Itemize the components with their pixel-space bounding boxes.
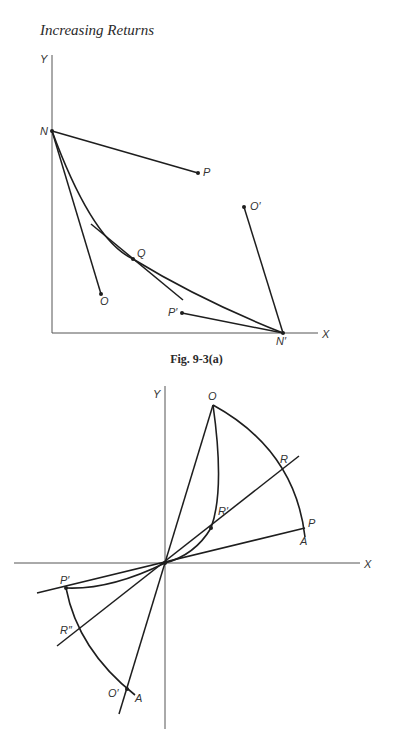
arc-o-r-p <box>213 405 305 537</box>
label-a-lower: A <box>134 692 142 704</box>
label-rdoubleprime: R″ <box>60 624 73 636</box>
point-q <box>131 257 135 261</box>
curve-n-q-nprime <box>52 131 283 333</box>
line-pprime-nprime <box>182 313 283 333</box>
point-rprime <box>209 526 213 530</box>
figure-caption: Fig. 9-3(a) <box>0 352 393 367</box>
x-axis-label: X <box>321 328 330 340</box>
y-axis-label: Y <box>153 388 161 400</box>
curve-origin-pprime <box>66 563 165 588</box>
label-pprime: P′ <box>60 574 70 586</box>
point-pprime <box>64 586 68 590</box>
point-oprime <box>125 687 129 691</box>
figure-b: Y X O R R′ P A P′ R″ O′ A <box>14 386 372 729</box>
point-pprime <box>180 311 184 315</box>
label-r: R <box>280 453 288 465</box>
label-pprime: P′ <box>168 306 178 318</box>
label-oprime: O′ <box>108 687 120 699</box>
label-o: O <box>100 295 109 307</box>
label-p: P <box>203 166 211 178</box>
label-rprime: R′ <box>218 505 229 517</box>
line-r-rdoubleprime <box>57 456 299 646</box>
figure-a: Y X N P O′ Q O P′ N′ <box>40 53 330 347</box>
point-n <box>50 129 54 133</box>
point-oprime <box>242 205 246 209</box>
line-oprime-nprime <box>244 207 283 333</box>
line-n-o <box>52 131 101 294</box>
y-axis-label: Y <box>40 53 48 65</box>
label-n: N <box>40 125 48 137</box>
point-origin <box>163 561 167 565</box>
label-oprime: O′ <box>250 200 262 212</box>
label-o: O <box>208 390 217 402</box>
x-axis-label: X <box>363 558 372 570</box>
label-a-upper: A <box>299 535 307 547</box>
label-p: P <box>308 517 316 529</box>
label-nprime: N′ <box>276 335 287 347</box>
point-p <box>196 171 200 175</box>
tangent-at-q <box>91 224 183 300</box>
label-q: Q <box>137 247 146 259</box>
arc-pprime-rdoubleprime-oprime <box>66 588 135 695</box>
line-n-p <box>52 131 198 173</box>
